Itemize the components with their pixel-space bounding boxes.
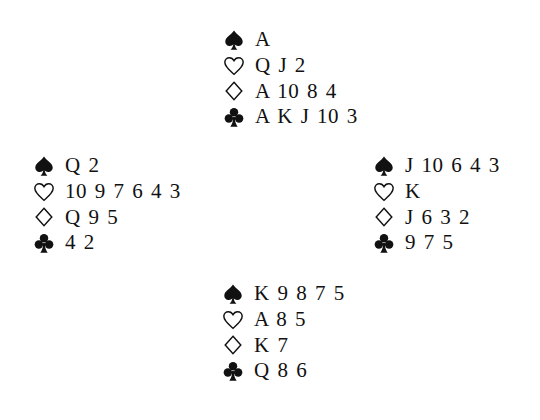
- west-diamonds: Q 9 5: [65, 207, 118, 228]
- west-hearts: 10 9 7 6 4 3: [65, 181, 181, 202]
- diamond-icon: [33, 206, 65, 228]
- spade-icon: [223, 29, 255, 51]
- east-diamonds-row: J 6 3 2: [373, 204, 500, 230]
- east-hearts: K: [405, 181, 421, 202]
- west-diamonds-row: Q 9 5: [33, 204, 181, 230]
- north-hearts-row: Q J 2: [223, 53, 358, 79]
- spade-icon: [33, 155, 65, 177]
- south-clubs-row: Q 8 6: [222, 358, 345, 384]
- south-diamonds: K 7: [254, 335, 288, 356]
- club-icon: [33, 232, 65, 254]
- spade-icon: [222, 283, 254, 305]
- west-clubs-row: 4 2: [33, 230, 181, 256]
- heart-icon: [33, 181, 65, 203]
- north-diamonds: A 10 8 4: [255, 81, 337, 102]
- club-icon: [373, 232, 405, 254]
- south-diamonds-row: K 7: [222, 332, 345, 358]
- east-spades-row: J 10 6 4 3: [373, 153, 500, 179]
- south-clubs: Q 8 6: [254, 360, 307, 381]
- north-hearts: Q J 2: [255, 55, 306, 76]
- heart-icon: [373, 181, 405, 203]
- hand-west: Q 2 10 9 7 6 4 3 Q 9 5 4 2: [33, 153, 181, 256]
- east-clubs: 9 7 5: [405, 232, 454, 253]
- hand-east: J 10 6 4 3 K J 6 3 2 9 7 5: [373, 153, 500, 256]
- diamond-icon: [373, 206, 405, 228]
- east-hearts-row: K: [373, 179, 500, 205]
- east-spades: J 10 6 4 3: [405, 155, 500, 176]
- south-hearts-row: A 8 5: [222, 307, 345, 333]
- north-clubs-row: A K J 10 3: [223, 104, 358, 130]
- north-spades: A: [255, 29, 271, 50]
- diamond-icon: [222, 334, 254, 356]
- hand-south: K 9 8 7 5 A 8 5 K 7 Q 8 6: [222, 281, 345, 384]
- north-diamonds-row: A 10 8 4: [223, 78, 358, 104]
- spade-icon: [373, 155, 405, 177]
- diamond-icon: [223, 80, 255, 102]
- west-hearts-row: 10 9 7 6 4 3: [33, 179, 181, 205]
- east-clubs-row: 9 7 5: [373, 230, 500, 256]
- north-clubs: A K J 10 3: [255, 106, 358, 127]
- east-diamonds: J 6 3 2: [405, 207, 470, 228]
- south-spades: K 9 8 7 5: [254, 283, 345, 304]
- south-spades-row: K 9 8 7 5: [222, 281, 345, 307]
- heart-icon: [223, 55, 255, 77]
- heart-icon: [222, 309, 254, 331]
- hand-north: A Q J 2 A 10 8 4 A K J 10 3: [223, 27, 358, 130]
- club-icon: [222, 360, 254, 382]
- west-clubs: 4 2: [65, 232, 95, 253]
- west-spades: Q 2: [65, 155, 99, 176]
- west-spades-row: Q 2: [33, 153, 181, 179]
- club-icon: [223, 106, 255, 128]
- north-spades-row: A: [223, 27, 358, 53]
- south-hearts: A 8 5: [254, 309, 306, 330]
